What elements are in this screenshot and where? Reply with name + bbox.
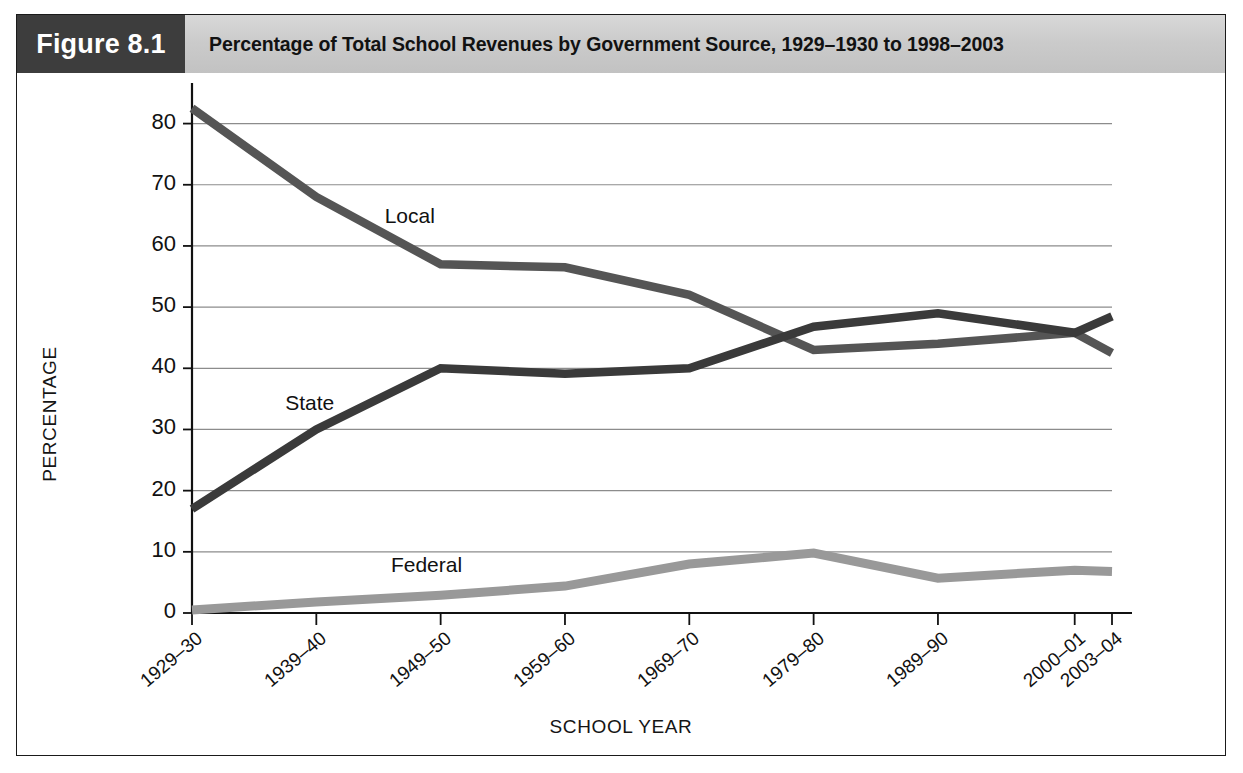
series-label-state: State xyxy=(285,391,334,415)
chart-plot-area: 01020304050607080 1929–301939–401949–501… xyxy=(17,73,1225,755)
series-line-federal xyxy=(192,553,1112,610)
x-axis-title: SCHOOL YEAR xyxy=(17,716,1225,738)
figure-title: Percentage of Total School Revenues by G… xyxy=(209,33,1004,56)
figure-title-box: Percentage of Total School Revenues by G… xyxy=(185,15,1225,73)
y-tick-label: 40 xyxy=(130,353,176,379)
y-tick-label: 0 xyxy=(130,598,176,624)
figure-root: Figure 8.1 Percentage of Total School Re… xyxy=(0,0,1243,773)
y-tick-label: 60 xyxy=(130,231,176,257)
figure-header: Figure 8.1 Percentage of Total School Re… xyxy=(17,15,1225,73)
y-axis-title: PERCENTAGE xyxy=(39,319,61,509)
figure-number-label: Figure 8.1 xyxy=(36,29,166,60)
y-tick-label: 70 xyxy=(130,170,176,196)
series-label-federal: Federal xyxy=(391,553,462,577)
y-tick-label: 20 xyxy=(130,476,176,502)
y-tick-label: 30 xyxy=(130,414,176,440)
y-tick-label: 80 xyxy=(130,109,176,135)
y-tick-label: 10 xyxy=(130,537,176,563)
figure-number-box: Figure 8.1 xyxy=(17,15,185,73)
y-tick-label: 50 xyxy=(130,292,176,318)
series-label-local: Local xyxy=(385,204,435,228)
